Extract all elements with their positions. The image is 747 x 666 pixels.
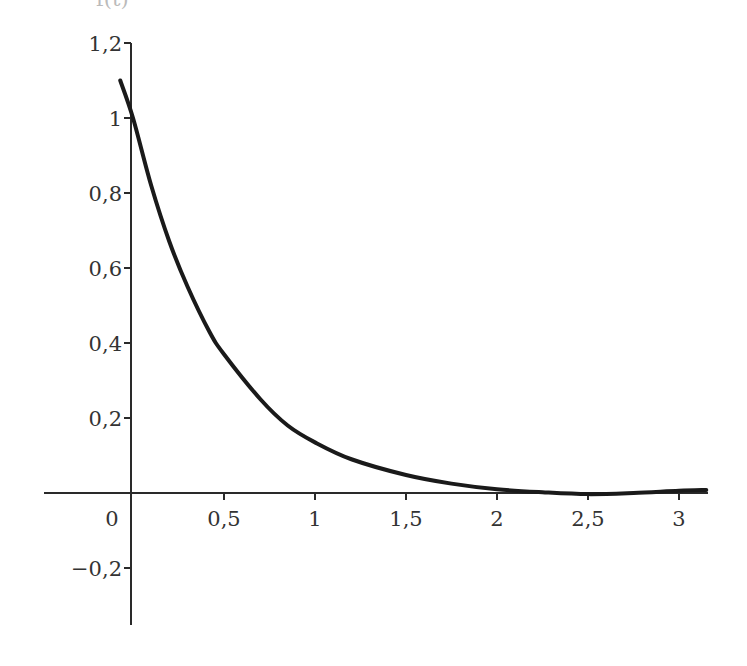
x-tick-label: 1 — [308, 507, 321, 531]
y-tick-label: 0,8 — [89, 182, 122, 206]
y-tick-label: 0,6 — [89, 257, 122, 281]
x-tick-label: 2 — [490, 507, 503, 531]
x-tick-label: 3 — [672, 507, 685, 531]
function-curve — [120, 81, 706, 495]
x-ticks: 0,511,522,53 — [207, 493, 685, 531]
y-tick-label: 0,4 — [89, 332, 122, 356]
y-tick-label: 1 — [109, 107, 122, 131]
x-tick-label: 2,5 — [571, 507, 604, 531]
y-tick-label: 1,2 — [89, 32, 122, 56]
axes — [44, 43, 708, 625]
y-axis-title-cropped: f(t) — [96, 0, 129, 11]
origin-label: 0 — [105, 507, 118, 531]
x-tick-label: 0,5 — [207, 507, 240, 531]
y-tick-label: 0,2 — [89, 407, 122, 431]
y-tick-label: −0,2 — [71, 557, 122, 581]
chart-canvas: f(t) 0,511,522,53 1,210,80,60,40,2−0,2 0 — [0, 0, 747, 666]
y-ticks: 1,210,80,60,40,2−0,2 — [71, 32, 131, 581]
x-tick-label: 1,5 — [389, 507, 422, 531]
